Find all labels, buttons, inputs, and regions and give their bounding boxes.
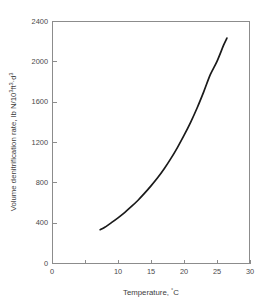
y-tick-label: 1200 (32, 138, 48, 147)
x-tick-label: 0 (50, 267, 54, 276)
y-tick-label: 0 (44, 259, 48, 268)
y-tick-label: 2000 (32, 57, 48, 66)
chart-background (0, 0, 274, 306)
x-tick-label: 15 (147, 267, 155, 276)
y-tick-label: 800 (36, 178, 48, 187)
x-tick-label: 30 (246, 267, 254, 276)
y-tick-label: 1600 (32, 97, 48, 106)
chart-figure: 01015202530 04008001200160020002400 Temp… (0, 0, 274, 306)
y-tick-label: 2400 (32, 17, 48, 26)
denitrification-rate-line-chart: 01015202530 04008001200160020002400 Temp… (0, 0, 274, 306)
y-axis-title: Volume denitrification rate, lb N/103ft3… (8, 73, 18, 212)
y-tick-label: 400 (36, 218, 48, 227)
x-tick-label: 10 (114, 267, 122, 276)
x-tick-label: 25 (213, 267, 221, 276)
x-tick-label: 20 (180, 267, 188, 276)
x-axis-title: Temperature, °C (123, 287, 179, 297)
